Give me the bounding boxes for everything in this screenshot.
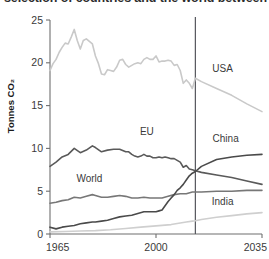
series-line-india: [50, 213, 262, 232]
x-tick-label: 2000: [144, 241, 168, 253]
y-tick-label: 20: [31, 56, 43, 68]
y-tick-label: 25: [31, 14, 43, 26]
y-tick-label: 10: [31, 142, 43, 154]
x-tick-label: 1965: [46, 241, 70, 253]
y-tick-label: 15: [31, 99, 43, 111]
series-label-india: India: [212, 196, 234, 207]
series-label-eu: EU: [140, 126, 154, 137]
series-label-world: World: [76, 173, 102, 184]
line-chart: 0510152025196520002035Tonnes CO₂USAEUWor…: [0, 11, 269, 259]
chart-title-strip: selection of countries and the world bet…: [0, 0, 269, 11]
series-label-china: China: [213, 133, 240, 144]
y-axis-title: Tonnes CO₂: [5, 79, 16, 133]
plot-layer: 0510152025196520002035Tonnes CO₂USAEUWor…: [5, 14, 267, 253]
chart-canvas: 0510152025196520002035Tonnes CO₂USAEUWor…: [0, 11, 269, 259]
x-tick-label: 2035: [244, 241, 268, 253]
y-tick-label: 0: [37, 228, 43, 240]
y-tick-label: 5: [37, 185, 43, 197]
page-title: selection of countries and the world bet…: [4, 0, 267, 5]
series-label-usa: USA: [212, 63, 233, 74]
